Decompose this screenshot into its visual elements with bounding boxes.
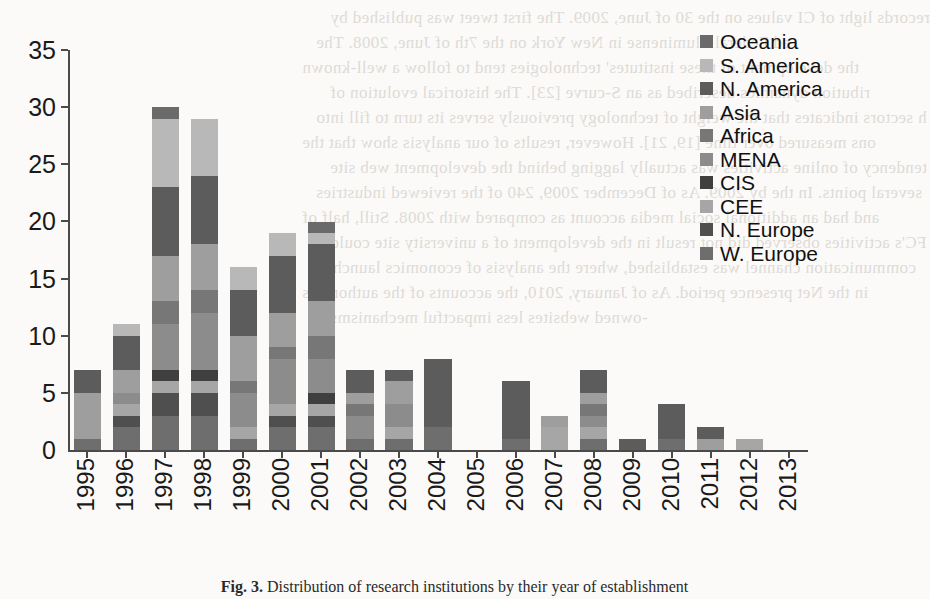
y-axis-tick (61, 163, 68, 165)
bar-segment (269, 256, 296, 313)
bar-segment (152, 393, 179, 416)
bar-segment (113, 393, 140, 404)
bar-segment (346, 416, 373, 439)
legend-item-africa[interactable]: Africa (700, 124, 823, 148)
bar-segment (269, 404, 296, 415)
y-axis-tick (61, 220, 68, 222)
x-axis-tick (671, 450, 673, 458)
legend-item-cis[interactable]: CIS (700, 171, 823, 195)
legend-item-mena[interactable]: MENA (700, 148, 823, 172)
x-axis-label-1999: 1999 (230, 458, 254, 511)
bar-segment (152, 187, 179, 256)
bar-segment (346, 404, 373, 415)
bar-column (152, 107, 179, 450)
y-axis-tick-label: 20 (28, 209, 56, 234)
y-axis-tick-label: 0 (42, 438, 56, 463)
bar-column (74, 370, 101, 450)
bar-column (346, 370, 373, 450)
legend-swatch-icon (700, 129, 713, 142)
caption-text: Distribution of research institutions by… (267, 578, 688, 595)
x-axis-label-2002: 2002 (347, 458, 371, 511)
bar-segment (191, 176, 218, 245)
legend-label: CIS (720, 172, 755, 193)
bar-segment (308, 393, 335, 404)
bar-segment (346, 439, 373, 450)
legend-item-w-europe[interactable]: W. Europe (700, 242, 823, 266)
bar-segment (424, 427, 451, 450)
bars-container (68, 50, 808, 450)
bar-segment (308, 336, 335, 359)
x-axis-tick (320, 450, 322, 458)
y-axis-tick-label: 30 (28, 95, 56, 120)
x-axis-tick (632, 450, 634, 458)
figure-number: Fig. 3. (221, 578, 263, 595)
legend-label: Africa (720, 125, 774, 146)
bar-column (308, 222, 335, 451)
x-axis-label-2011: 2011 (698, 458, 722, 510)
bar-column (502, 381, 529, 450)
legend-swatch-icon (700, 200, 713, 213)
bar-segment (308, 222, 335, 233)
legend-item-cee[interactable]: CEE (700, 195, 823, 219)
bar-segment (580, 393, 607, 404)
x-axis-label-1995: 1995 (74, 458, 98, 511)
legend-item-oceania[interactable]: Oceania (700, 30, 823, 54)
y-axis-tick (61, 106, 68, 108)
bar-segment (152, 324, 179, 370)
x-axis-label-2012: 2012 (737, 458, 761, 511)
legend-item-n-europe[interactable]: N. Europe (700, 218, 823, 242)
legend-item-s-america[interactable]: S. America (700, 54, 823, 78)
x-axis-tick (749, 450, 751, 458)
legend-label: MENA (720, 149, 781, 170)
bar-segment (658, 404, 685, 438)
bar-segment (385, 404, 412, 427)
bar-column (541, 416, 568, 450)
bar-segment (191, 416, 218, 450)
figure-caption: Fig. 3. Distribution of research institu… (0, 578, 909, 596)
x-axis-tick (203, 450, 205, 458)
bar-segment (152, 301, 179, 324)
x-axis-label-1998: 1998 (191, 458, 215, 511)
bar-segment (113, 324, 140, 335)
bar-segment (191, 370, 218, 381)
legend-swatch-icon (700, 176, 713, 189)
bar-segment (308, 233, 335, 244)
legend-item-n-america[interactable]: N. America (700, 77, 823, 101)
bar-column (736, 439, 763, 450)
bar-segment (424, 359, 451, 428)
bar-segment (152, 370, 179, 381)
bar-column (113, 324, 140, 450)
bar-segment (230, 393, 257, 427)
bar-segment (385, 381, 412, 404)
legend-swatch-icon (700, 35, 713, 48)
bar-column (697, 427, 724, 450)
bar-column (658, 404, 685, 450)
x-axis-tick (593, 450, 595, 458)
y-axis-tick (61, 392, 68, 394)
bar-segment (308, 404, 335, 415)
bar-segment (385, 370, 412, 381)
x-axis-label-2013: 2013 (776, 458, 800, 511)
x-axis-label-2001: 2001 (308, 458, 332, 511)
bar-segment (152, 256, 179, 302)
legend-label: Oceania (720, 31, 798, 52)
x-axis-tick (788, 450, 790, 458)
bar-segment (191, 381, 218, 392)
bar-segment (308, 301, 335, 335)
bar-segment (74, 370, 101, 393)
x-axis-tick (164, 450, 166, 458)
bar-segment (308, 427, 335, 450)
bar-segment (230, 336, 257, 382)
bar-column (580, 370, 607, 450)
bar-segment (113, 370, 140, 393)
legend-item-asia[interactable]: Asia (700, 101, 823, 125)
legend-swatch-icon (700, 59, 713, 72)
bar-segment (230, 439, 257, 450)
x-axis-label-2008: 2008 (581, 458, 605, 511)
bar-segment (502, 381, 529, 438)
x-axis-tick (710, 450, 712, 458)
bar-segment (152, 107, 179, 118)
bar-segment (385, 439, 412, 450)
bar-segment (152, 416, 179, 450)
